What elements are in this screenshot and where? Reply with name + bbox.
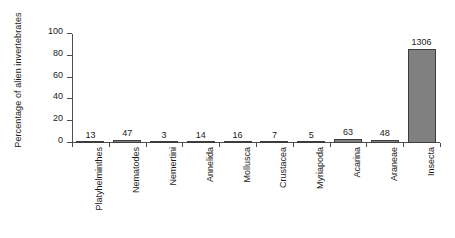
bar (334, 139, 362, 143)
x-axis-category-label: Crustacea (278, 147, 288, 188)
x-axis-category-label: Nematodes (131, 147, 141, 193)
x-axis-category: Annelida (182, 147, 219, 237)
bar-group: 3 (146, 34, 183, 143)
x-axis-category: Insecta (403, 147, 440, 237)
bar-group: 7 (256, 34, 293, 143)
bar (371, 140, 399, 143)
bar (187, 141, 215, 143)
bar (408, 49, 436, 143)
y-axis-title: Percentage of alien invertebrates (13, 5, 23, 155)
x-axis-category: Nematodes (109, 147, 146, 237)
bar-group: 1306 (403, 34, 440, 143)
x-axis-category-label: Platyhelminthes (94, 147, 104, 211)
y-axis-tick-label: 40 (53, 91, 63, 101)
x-axis-category: Mollusca (219, 147, 256, 237)
x-axis-category-label: Acarina (352, 147, 362, 178)
y-axis-tick-label: 100 (48, 26, 63, 36)
y-axis-tick-label: 80 (53, 48, 63, 58)
plot-area: 0204060801001347314167563481306 (72, 34, 440, 143)
bar-group: 47 (109, 34, 146, 143)
x-axis-category: Myriapoda (293, 147, 330, 237)
x-axis-category: Nemertini (146, 147, 183, 237)
bar-chart: Percentage of alien invertebrates 020406… (0, 0, 455, 238)
x-axis-category-label: Insecta (426, 147, 436, 176)
x-axis-category-label: Nemertini (168, 147, 178, 186)
bar (297, 141, 325, 143)
bar-group: 14 (182, 34, 219, 143)
x-axis-category-label: Mollusca (242, 147, 252, 183)
x-axis-category: Acarina (330, 147, 367, 237)
bar (113, 140, 141, 143)
bar (260, 141, 288, 143)
bar-value-label: 1306 (392, 37, 452, 47)
y-axis-tick-label: 60 (53, 70, 63, 80)
bar (224, 141, 252, 143)
x-axis-tick (440, 143, 441, 147)
x-axis-category-label: Annelida (205, 147, 215, 182)
x-axis-category: Platyhelminthes (72, 147, 109, 237)
bar-group: 16 (219, 34, 256, 143)
y-axis-tick-label: 20 (53, 113, 63, 123)
x-axis-category-label: Araneae (389, 147, 399, 181)
x-axis-category-label: Myriapoda (315, 147, 325, 189)
x-axis-category: Araneae (366, 147, 403, 237)
bar (150, 141, 178, 143)
bar (76, 141, 104, 143)
x-axis-category: Crustacea (256, 147, 293, 237)
bar-group: 48 (366, 34, 403, 143)
